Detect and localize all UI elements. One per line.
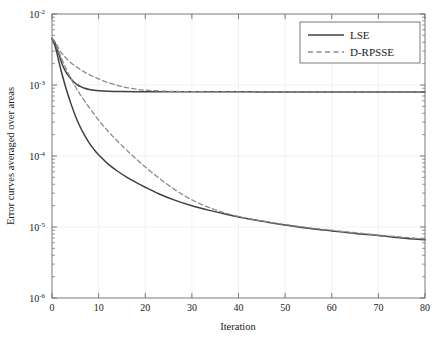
x-tick-label: 10 (94, 302, 104, 313)
x-tick-label: 40 (234, 302, 244, 313)
x-tick-label: 20 (140, 302, 150, 313)
chart-legend: LSED-RPSSE (300, 22, 420, 63)
legend-label-d-rpsse: D-RPSSE (350, 46, 394, 58)
x-tick-label: 50 (280, 302, 290, 313)
y-axis-title: Error curves averaged over areas (5, 87, 16, 225)
x-tick-label: 80 (420, 302, 430, 313)
x-tick-label: 60 (327, 302, 337, 313)
line-chart: 01020304050607080 10-210-310-410-510-6 I… (0, 0, 438, 339)
legend-label-lse: LSE (350, 29, 370, 41)
figure-container: 01020304050607080 10-210-310-410-510-6 I… (0, 0, 438, 339)
x-tick-label: 0 (50, 302, 55, 313)
x-tick-label: 30 (187, 302, 197, 313)
x-tick-label: 70 (373, 302, 383, 313)
x-axis-title: Iteration (220, 321, 256, 332)
